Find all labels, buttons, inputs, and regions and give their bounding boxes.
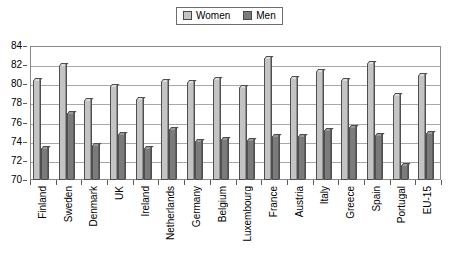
x-axis-category-label: Finland: [38, 186, 48, 219]
bar-group: [261, 46, 287, 180]
bar-men: [169, 129, 176, 180]
y-tick-mark: [23, 65, 27, 66]
bar-group: [184, 46, 210, 180]
bar-side-face: [124, 133, 126, 179]
bar-women: [341, 80, 348, 181]
bar-group: [133, 46, 159, 180]
bar-men: [195, 141, 202, 180]
legend-entry-men: Men: [243, 11, 275, 21]
bar-women: [33, 80, 40, 180]
bar-men: [426, 133, 433, 180]
x-tick-mark: [81, 180, 82, 185]
bar-women: [161, 81, 168, 180]
x-tick-mark: [184, 180, 185, 185]
y-tick-mark: [23, 180, 27, 181]
bar-men: [41, 148, 48, 180]
x-axis-category-label: Belgium: [218, 186, 228, 222]
x-tick-mark: [390, 180, 391, 185]
bar-women: [110, 86, 117, 180]
legend-label-men: Men: [256, 11, 275, 21]
bar-side-face: [432, 132, 434, 179]
bar-women: [393, 95, 400, 180]
x-axis-category-label: EU-15: [423, 186, 433, 214]
y-tick-label: 70: [11, 175, 22, 185]
bar-women: [316, 71, 323, 180]
y-tick-mark: [23, 161, 27, 162]
bar-group: [364, 46, 390, 180]
x-tick-mark: [30, 180, 31, 185]
legend-label-women: Women: [196, 11, 230, 21]
bar-side-face: [330, 129, 332, 179]
x-axis-category-label: Portugal: [397, 186, 407, 223]
legend-swatch-women-icon: [183, 11, 192, 20]
bar-men: [118, 134, 125, 180]
bar-side-face: [278, 135, 280, 179]
bar-men: [221, 139, 228, 180]
y-tick-label: 76: [11, 118, 22, 128]
x-tick-mark: [210, 180, 211, 185]
x-axis-labels: FinlandSwedenDenmarkUKIrelandNetherlands…: [30, 186, 441, 256]
bar-side-face: [47, 147, 49, 179]
x-axis-category-label: Italy: [320, 186, 330, 204]
bar-side-face: [175, 128, 177, 179]
bar-group: [287, 46, 313, 180]
x-tick-mark: [236, 180, 237, 185]
bar-men: [401, 165, 408, 180]
bar-men: [272, 136, 279, 180]
bar-side-face: [355, 126, 357, 179]
bar-women: [239, 87, 246, 180]
bar-side-face: [227, 138, 229, 179]
bar-women: [264, 58, 271, 180]
bar-women: [213, 79, 220, 180]
bar-women: [290, 78, 297, 180]
y-tick-label: 80: [11, 79, 22, 89]
x-axis-category-label: France: [269, 186, 279, 217]
bar-group: [338, 46, 364, 180]
bar-women: [367, 63, 374, 180]
legend-swatch-men-icon: [243, 11, 252, 20]
y-tick-label: 82: [11, 60, 22, 70]
bar-side-face: [253, 139, 255, 179]
bar-men: [349, 127, 356, 180]
bar-side-face: [201, 140, 203, 179]
bar-side-face: [98, 144, 100, 179]
bar-side-face: [304, 135, 306, 179]
y-tick-label: 74: [11, 137, 22, 147]
x-axis-category-label: UK: [115, 186, 125, 200]
x-tick-mark: [107, 180, 108, 185]
x-axis-category-label: Luxembourg: [243, 186, 253, 242]
legend-entry-women: Women: [183, 11, 230, 21]
x-axis-category-label: Sweden: [64, 186, 74, 222]
bar-women: [187, 82, 194, 180]
bars-layer: [30, 46, 441, 180]
x-tick-mark: [56, 180, 57, 185]
chart-legend: Women Men: [176, 7, 283, 25]
x-tick-mark: [338, 180, 339, 185]
x-tick-mark: [133, 180, 134, 185]
x-axis-category-label: Denmark: [89, 186, 99, 227]
bar-men: [298, 136, 305, 180]
y-tick-mark: [23, 84, 27, 85]
bar-group: [56, 46, 82, 180]
bar-group: [158, 46, 184, 180]
x-tick-mark: [287, 180, 288, 185]
bar-group: [313, 46, 339, 180]
x-axis-category-label: Germany: [192, 186, 202, 227]
x-tick-mark: [313, 180, 314, 185]
bar-group: [210, 46, 236, 180]
x-axis-category-label: Austria: [295, 186, 305, 217]
x-axis-category-label: Greece: [346, 186, 356, 219]
x-tick-mark: [158, 180, 159, 185]
x-tick-mark: [441, 180, 442, 185]
y-tick-mark: [23, 103, 27, 104]
x-tick-mark: [364, 180, 365, 185]
bar-men: [92, 145, 99, 180]
bar-men: [324, 130, 331, 180]
bar-group: [107, 46, 133, 180]
y-tick-label: 84: [11, 41, 22, 51]
bar-men: [375, 135, 382, 180]
bar-women: [418, 75, 425, 180]
x-tick-mark: [415, 180, 416, 185]
y-tick-label: 72: [11, 156, 22, 166]
bar-group: [236, 46, 262, 180]
